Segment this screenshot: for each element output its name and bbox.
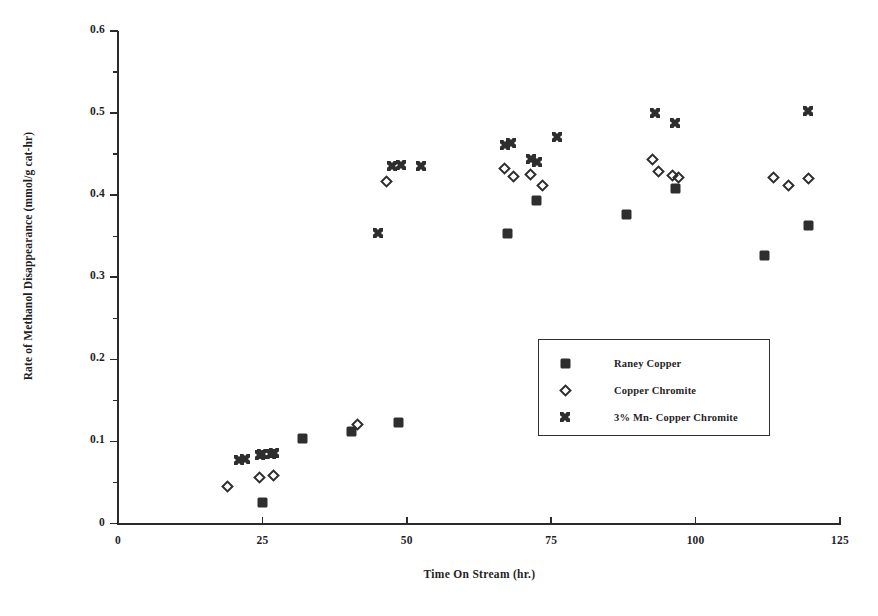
marker-open-diamond [646,153,659,166]
legend-item: Raney Copper [539,350,769,376]
x-tick [550,517,552,525]
y-tick [110,359,118,361]
y-tick [110,112,118,114]
chart-legend: Raney CopperCopper Chromite3% Mn- Copper… [538,339,770,436]
marker-star-square [269,448,279,458]
x-tick [839,517,841,525]
marker-filled-square [561,359,570,368]
y-tick [110,441,118,443]
marker-filled-square [503,229,512,238]
legend-symbol [559,411,571,423]
x-axis-line [118,523,841,525]
marker-filled-square [298,434,307,443]
y-tick-label: 0.6 [5,23,105,35]
scatter-chart-figure: 00.10.20.30.40.50.6 0255075100125 Rate o… [0,0,878,616]
x-tick [406,517,408,525]
y-tick-label: 0 [5,516,105,528]
marker-star-square [506,138,516,148]
marker-open-diamond [802,172,815,185]
y-tick-minor [113,153,118,154]
y-tick-minor [113,71,118,72]
marker-star-square [240,454,250,464]
x-tick-label: 25 [232,534,292,546]
y-tick-label: 0.4 [5,187,105,199]
y-tick-minor [113,236,118,237]
marker-open-diamond [767,171,780,184]
marker-star-square [670,118,680,128]
marker-star-square [416,161,426,171]
legend-label: 3% Mn- Copper Chromite [614,412,738,423]
x-tick [695,517,697,525]
marker-filled-square [532,196,541,205]
marker-star-square [373,228,383,238]
marker-open-diamond [536,179,549,192]
marker-star-square [650,108,660,118]
x-tick-label: 50 [377,534,437,546]
x-tick-label: 100 [666,534,726,546]
marker-filled-square [804,221,813,230]
marker-open-diamond [652,165,665,178]
y-tick-minor [113,318,118,319]
marker-open-diamond [559,384,572,397]
legend-symbol [559,357,571,369]
legend-symbol [559,384,571,396]
marker-filled-square [394,418,403,427]
y-tick-minor [113,400,118,401]
y-tick-label: 0.1 [5,433,105,445]
y-tick [110,30,118,32]
y-axis-title: Rate of Methanol Disappearance (mmol/g c… [22,56,34,456]
x-axis-title: Time On Stream (hr.) [118,568,841,580]
y-tick [110,276,118,278]
marker-star-square [560,412,570,422]
marker-open-diamond [268,470,281,483]
y-tick-label: 0.5 [5,105,105,117]
marker-open-diamond [507,170,520,183]
marker-filled-square [258,498,267,507]
x-tick-label: 125 [810,534,870,546]
x-tick-label: 75 [521,534,581,546]
marker-star-square [552,132,562,142]
marker-filled-square [671,184,680,193]
marker-open-diamond [525,168,538,181]
marker-star-square [396,160,406,170]
legend-item: 3% Mn- Copper Chromite [539,404,769,430]
legend-item: Copper Chromite [539,377,769,403]
marker-open-diamond [221,480,234,493]
legend-label: Raney Copper [614,358,681,369]
x-tick [262,517,264,525]
marker-open-diamond [380,175,393,188]
y-tick-minor [113,482,118,483]
legend-label: Copper Chromite [614,385,696,396]
marker-filled-square [760,251,769,260]
y-tick-label: 0.3 [5,269,105,281]
marker-star-square [532,157,542,167]
marker-open-diamond [782,179,795,192]
y-tick [110,194,118,196]
marker-open-diamond [253,471,266,484]
marker-filled-square [622,210,631,219]
marker-star-square [803,106,813,116]
x-tick [117,517,119,525]
y-tick-label: 0.2 [5,351,105,363]
x-tick-label: 0 [88,534,148,546]
